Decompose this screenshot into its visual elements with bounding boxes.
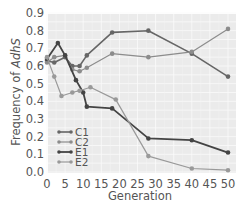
data-point [85, 53, 90, 58]
data-point [190, 50, 195, 55]
data-point [70, 90, 75, 95]
data-point [56, 41, 61, 46]
data-point [226, 150, 231, 155]
data-point [110, 51, 115, 56]
data-point [52, 74, 57, 79]
line-chart: 0.00.10.20.30.40.50.60.70.80.90510152025… [0, 0, 251, 207]
x-tick-label: 45 [203, 177, 218, 191]
data-point [59, 94, 64, 99]
chart-canvas: 0.00.10.20.30.40.50.60.70.80.90510152025… [0, 0, 251, 207]
data-point [146, 136, 151, 141]
y-axis-label: Frequency of AdhS [9, 38, 23, 146]
data-point [113, 97, 118, 102]
data-point [146, 55, 151, 60]
svg-text:E2: E2 [75, 156, 88, 168]
y-tick-label: 0.3 [26, 112, 44, 126]
data-point [77, 88, 82, 93]
data-point [77, 69, 82, 74]
y-tick-label: 0.5 [26, 77, 44, 91]
data-point [85, 104, 90, 109]
data-point [146, 28, 151, 33]
data-point [110, 106, 115, 111]
x-axis-label: Generation [108, 189, 172, 203]
data-point [146, 154, 151, 159]
y-tick-label: 0.7 [26, 41, 44, 55]
x-tick-label: 50 [221, 177, 236, 191]
y-tick-label: 0.6 [26, 59, 44, 73]
y-tick-label: 0.9 [26, 6, 44, 20]
data-point [190, 138, 195, 143]
y-tick-label: 0.1 [26, 147, 44, 161]
data-point [45, 55, 50, 60]
data-point [226, 74, 231, 79]
x-tick-label: 5 [61, 177, 68, 191]
data-point [85, 65, 90, 70]
data-point [110, 30, 115, 35]
data-point [52, 60, 57, 65]
data-point [226, 27, 231, 32]
y-tick-label: 0.8 [26, 24, 44, 38]
x-tick-label: 15 [94, 177, 109, 191]
x-tick-label: 10 [76, 177, 91, 191]
x-tick-label: 40 [184, 177, 199, 191]
y-tick-label: 0.4 [26, 94, 44, 108]
data-point [77, 64, 82, 69]
data-point [226, 168, 231, 173]
y-tick-label: 0.0 [26, 165, 44, 179]
x-tick-label: 0 [43, 177, 50, 191]
data-point [88, 85, 93, 90]
data-point [63, 53, 68, 58]
data-point [52, 55, 57, 60]
data-point [74, 78, 79, 83]
y-tick-label: 0.2 [26, 130, 44, 144]
data-point [190, 166, 195, 171]
